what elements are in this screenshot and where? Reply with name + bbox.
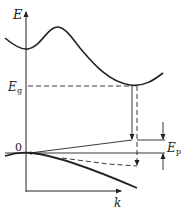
band-gap-label-subscript: g (17, 86, 22, 95)
phonon-energy-label-subscript: p (176, 147, 181, 156)
energy-axis-label: E (12, 7, 23, 22)
conduction-band-curve (5, 27, 163, 85)
valence-dashed-line (62, 158, 137, 166)
band-gap-label: E (7, 80, 17, 94)
phonon-energy-label: E (166, 141, 176, 155)
origin-label: 0 (15, 141, 22, 154)
band-diagram: E k 0 E g E p (0, 0, 187, 212)
k-axis-label: k (114, 196, 121, 210)
phonon-absorption-line (30, 140, 132, 153)
valence-band-curve (5, 153, 137, 188)
